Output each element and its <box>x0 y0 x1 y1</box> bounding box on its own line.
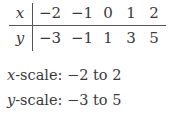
row-label-x: x <box>9 4 31 22</box>
x-value-cell: 1 <box>120 4 142 22</box>
x-value-cell: 0 <box>97 4 119 22</box>
x-scale-text: x-scale: −2 to 2 <box>7 66 121 84</box>
y-value-cell: 5 <box>143 29 165 47</box>
x-value-cell: −2 <box>39 4 61 22</box>
y-value-cell: −3 <box>39 29 61 47</box>
values-table: x −2 −1 0 1 2 y −3 −1 1 3 5 <box>0 0 172 56</box>
y-value-cell: 3 <box>120 29 142 47</box>
x-value-cell: 2 <box>143 4 165 22</box>
table-vertical-rule <box>32 3 33 51</box>
row-label-y: y <box>9 29 31 47</box>
x-value-cell: −1 <box>71 4 93 22</box>
y-scale-text: y-scale: −3 to 5 <box>7 91 121 109</box>
y-value-cell: 1 <box>97 29 119 47</box>
y-value-cell: −1 <box>71 29 93 47</box>
